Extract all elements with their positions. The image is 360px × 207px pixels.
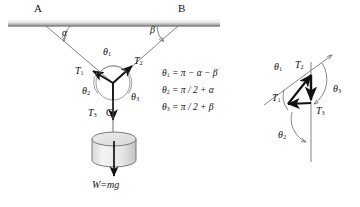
vt-T2-sub: 2: [301, 63, 304, 70]
theta1-arc: [99, 66, 126, 74]
vt-T2-label: T2: [295, 60, 304, 71]
vt-theta2-sub: 2: [283, 133, 286, 140]
vt-T3-label: T3: [316, 106, 325, 117]
figure-canvas: A B α β θ1 θ2 θ3 T1 T2 T3 C W=mg θ1 = π …: [0, 0, 360, 207]
weight-label: W=mg: [92, 180, 119, 190]
ceiling-bar: [8, 19, 220, 26]
ft-theta3-arc: [314, 63, 327, 104]
point-A-label: A: [34, 3, 42, 14]
vt-theta1-label: θ1: [274, 62, 282, 73]
theta1-left-sub: 1: [108, 50, 111, 57]
equation-theta2-rhs: = π / 2 + α: [172, 85, 214, 95]
equation-theta1: θ1 = π − α − β: [162, 69, 218, 79]
vt-T3-sub: 3: [322, 109, 325, 116]
vt-theta3-sub: 3: [338, 87, 341, 94]
vt-theta2-label: θ2: [278, 130, 286, 141]
tension-T2-sub: 2: [140, 59, 143, 66]
angle-beta-label: β: [150, 25, 155, 35]
equation-theta3-sub: 3: [167, 106, 170, 112]
tension-T3-sub: 3: [94, 111, 97, 118]
equation-theta1-rhs: = π − α − β: [172, 68, 218, 78]
tension-T2-label: T2: [134, 56, 143, 67]
ft-theta1-arc: [283, 90, 288, 110]
point-C-label: C: [106, 108, 113, 118]
vt-T1-sub: 1: [278, 96, 281, 103]
theta2-left-label: θ2: [82, 86, 90, 97]
vt-theta3-label: θ3: [333, 84, 341, 95]
tension-T1-sub: 1: [81, 69, 84, 76]
theta3-left-label: θ3: [131, 92, 139, 103]
tension-T3-label: T3: [88, 108, 97, 119]
equation-theta2-sub: 2: [167, 89, 170, 95]
equation-theta1-sub: 1: [167, 72, 170, 78]
vt-T1-label: T1: [272, 93, 281, 104]
theta1-left-label: θ1: [103, 47, 111, 58]
point-B-label: B: [178, 3, 185, 14]
ft-vector-T1: [288, 103, 311, 104]
theta3-left-sub: 3: [136, 95, 139, 102]
ft-theta2-arc: [291, 112, 306, 142]
equation-theta3-rhs: = π / 2 + β: [172, 102, 214, 112]
angle-alpha-label: α: [62, 28, 67, 38]
equation-theta2: θ2 = π / 2 + α: [162, 86, 214, 96]
vt-theta1-sub: 1: [279, 65, 282, 72]
tension-T1-label: T1: [75, 66, 84, 77]
equation-theta3: θ3 = π / 2 + β: [162, 103, 214, 113]
theta2-left-sub: 2: [87, 89, 90, 96]
